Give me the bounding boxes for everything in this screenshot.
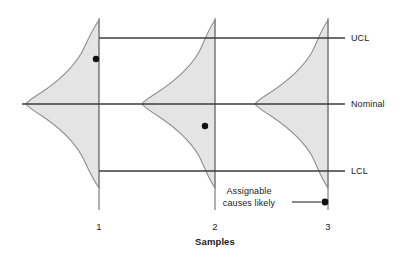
chart-canvas xyxy=(0,0,399,260)
x-axis-title: Samples xyxy=(175,236,255,247)
annotation-line-2: causes likely xyxy=(223,198,275,208)
data-point-sample-3 xyxy=(322,199,329,206)
lcl-label: LCL xyxy=(351,166,368,177)
x-tick-label-1: 1 xyxy=(89,221,109,232)
data-point-sample-2 xyxy=(202,123,208,129)
nominal-label: Nominal xyxy=(351,99,385,110)
x-tick-label-3: 3 xyxy=(318,221,338,232)
assignable-causes-annotation: Assignable causes likely xyxy=(207,186,291,209)
control-limit-lines xyxy=(22,38,345,171)
spc-control-chart-figure: UCL Nominal LCL Assignable causes likely… xyxy=(0,0,399,260)
data-point-sample-1 xyxy=(93,56,99,62)
annotation-line-1: Assignable xyxy=(226,186,271,196)
x-tick-label-2: 2 xyxy=(205,221,225,232)
ucl-label: UCL xyxy=(351,33,369,44)
